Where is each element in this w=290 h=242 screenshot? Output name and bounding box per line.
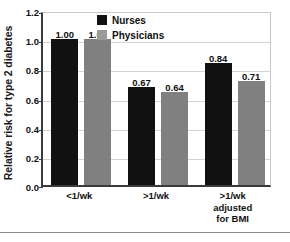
y-axis-tick-labels: 0.00.20.40.60.81.01.2 (15, 7, 39, 187)
legend-item: Nurses (97, 13, 189, 27)
bar (238, 81, 265, 185)
bar-value-label: 0.67 (132, 77, 151, 88)
x-axis-category-label-line: adjusted (213, 202, 252, 214)
legend-item-label: Nurses (112, 15, 146, 26)
y-axis-tick-label: 0.8 (26, 65, 39, 76)
y-axis-tick-mark (39, 187, 43, 188)
chart-legend: NursesPhysicians (97, 13, 189, 43)
x-axis-category-label: <1/wk (66, 190, 92, 202)
bar (84, 39, 111, 185)
bar (51, 39, 78, 185)
bar-value-label: 0.64 (165, 82, 184, 93)
legend-item-label: Physicians (112, 30, 164, 41)
y-axis-tick-label: 0.2 (26, 152, 39, 163)
legend-swatch-icon (97, 30, 107, 40)
legend-item: Physicians (97, 28, 189, 42)
x-axis-category-labels: <1/wk>1/wk>1/wkadjustedfor BMI (41, 190, 271, 236)
x-axis-category-label-line: for BMI (213, 213, 252, 225)
y-axis-title: Relative risk for type 2 diabetes (0, 18, 16, 188)
footer-divider (0, 232, 290, 233)
bar-value-label: 0.71 (242, 71, 261, 82)
chart-figure: Relative risk for type 2 diabetes 0.00.2… (0, 0, 290, 242)
y-axis-title-text: Relative risk for type 2 diabetes (2, 26, 14, 180)
bar (161, 92, 188, 185)
x-axis-category-label: >1/wkadjustedfor BMI (213, 190, 252, 225)
y-axis-tick-label: 0.0 (26, 182, 39, 193)
y-axis-tick-label: 1.0 (26, 36, 39, 47)
y-axis-tick-label: 0.4 (26, 123, 39, 134)
bar (128, 87, 155, 185)
bar-value-label: 0.84 (209, 53, 228, 64)
y-axis-tick-label: 1.2 (26, 7, 39, 18)
x-axis-category-label-line: <1/wk (66, 190, 92, 202)
x-axis-category-label-line: >1/wk (213, 190, 252, 202)
x-axis-category-label: >1/wk (143, 190, 169, 202)
bar-value-label: 1.00 (56, 29, 75, 40)
legend-swatch-icon (97, 15, 107, 25)
y-axis-tick-label: 0.6 (26, 94, 39, 105)
bar (205, 63, 232, 186)
x-axis-category-label-line: >1/wk (143, 190, 169, 202)
